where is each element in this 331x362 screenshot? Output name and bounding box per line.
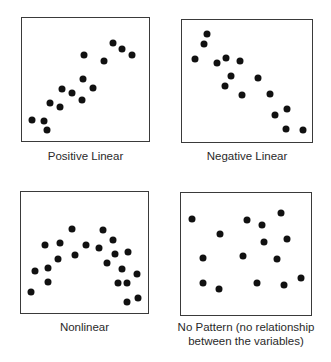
data-point [69,226,76,233]
data-point [81,52,88,59]
data-point [228,73,235,80]
data-point [284,236,291,243]
data-point [284,106,291,113]
data-point [119,46,126,53]
data-point [45,279,52,286]
data-point [83,242,90,249]
data-point [298,275,305,282]
data-point [244,217,251,224]
data-point [57,104,64,111]
data-point [134,271,141,278]
data-point [41,118,48,125]
data-point [69,90,76,97]
data-point [96,245,103,252]
data-point [104,260,111,267]
data-point [283,126,290,133]
data-point [29,117,36,124]
data-point [124,280,131,287]
caption-no-pattern: No Pattern (no relationshipbetween the v… [166,320,326,348]
data-point [59,86,66,93]
data-point [223,55,230,62]
data-point [267,91,274,98]
data-point [255,75,262,82]
data-point [214,60,221,67]
caption-negative-linear: Negative Linear [181,149,313,163]
data-point [259,222,266,229]
data-point [110,40,117,47]
data-point [100,227,107,234]
data-point [200,255,207,262]
data-point [28,289,35,296]
data-point [281,282,288,289]
data-point [47,100,54,107]
data-point [55,256,62,263]
data-point [222,83,229,90]
data-point [44,127,51,134]
data-point [101,58,108,65]
data-point [189,216,196,223]
data-point [216,286,223,293]
data-point [79,97,86,104]
data-point [261,239,268,246]
data-point [45,265,52,272]
caption-line: between the variables) [166,334,326,348]
data-point [240,253,247,260]
data-point [115,280,122,287]
data-point [110,237,117,244]
data-point [42,242,49,249]
data-point [57,240,64,247]
data-point [200,280,207,287]
data-point [300,127,307,134]
caption-positive-linear: Positive Linear [21,149,150,163]
plot-area-negative-linear [181,19,313,143]
data-point [32,268,39,275]
data-point [135,295,142,302]
data-point [201,41,208,48]
data-point [237,58,244,65]
data-point [274,256,281,263]
caption-nonlinear: Nonlinear [20,320,149,334]
data-point [278,210,285,217]
data-point [129,52,136,59]
data-point [72,252,79,259]
data-point [80,76,87,83]
data-point [217,231,224,238]
data-point [125,249,132,256]
data-point [90,85,97,92]
data-point [254,280,261,287]
data-point [192,56,199,63]
data-point [272,112,279,119]
data-point [124,299,131,306]
data-point [119,266,126,273]
caption-line: No Pattern (no relationship [166,320,326,334]
data-point [112,251,119,258]
data-point [204,31,211,38]
data-point [239,92,246,99]
